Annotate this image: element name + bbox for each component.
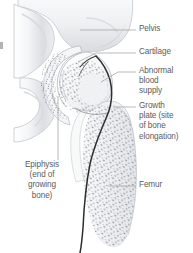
label-abnormal-blood-supply: Abnormal blood supply	[139, 66, 173, 97]
label-cartilage: Cartilage	[139, 47, 171, 57]
edge-crop-mark	[0, 42, 3, 49]
label-pelvis: Pelvis	[139, 24, 160, 34]
label-epiphysis: Epiphysis (end of growing bone)	[18, 160, 66, 201]
label-growth-plate: Growth plate (site of bone elongation)	[139, 101, 178, 142]
hip-anatomy-figure: Pelvis Cartilage Abnormal blood supply G…	[0, 0, 193, 253]
label-femur: Femur	[139, 180, 162, 190]
